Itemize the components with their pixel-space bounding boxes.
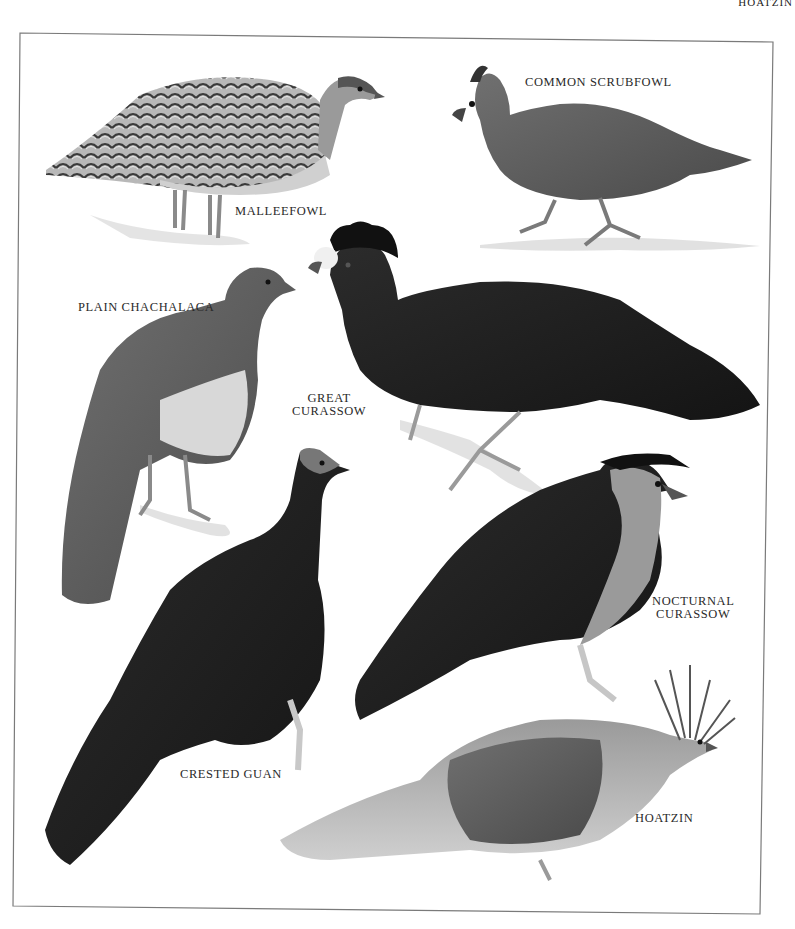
label-plain-chachalaca: PLAIN CHACHALACA [78,301,214,314]
label-great-curassow: GREAT CURASSOW [292,392,366,418]
nocturnal-curassow-illustration [355,454,690,720]
label-common-scrubfowl: COMMON SCRUBFOWL [525,76,672,89]
hoatzin-illustration [280,665,735,880]
label-malleefowl: MALLEEFOWL [235,205,327,218]
label-nocturnal-curassow: NOCTURNAL CURASSOW [652,595,734,621]
label-hoatzin: HOATZIN [635,812,693,825]
label-great-curassow-line2: CURASSOW [292,405,366,418]
label-crested-guan: CRESTED GUAN [180,768,282,781]
common-scrubfowl-illustration [452,66,760,251]
label-nocturnal-curassow-line2: CURASSOW [652,608,734,621]
great-curassow-illustration [308,222,760,496]
illustration-plate [0,0,795,929]
malleefowl-illustration [46,76,385,245]
